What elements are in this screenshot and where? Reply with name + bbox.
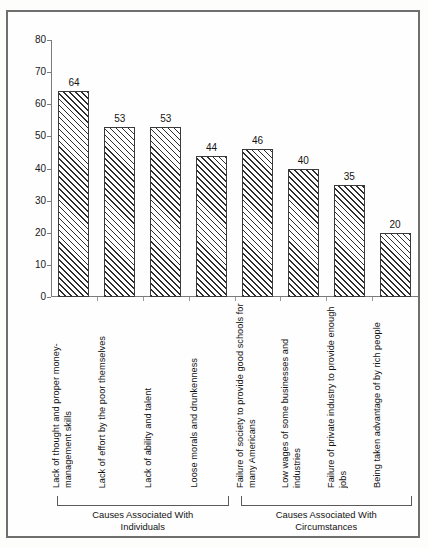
group-caption: Causes Associated WithIndividuals <box>57 509 229 533</box>
bar-value-label: 40 <box>298 155 309 167</box>
group-caption: Causes Associated WithCircumstances <box>241 509 413 533</box>
bar-value-label: 44 <box>206 142 217 154</box>
group-bracket-line <box>241 496 413 506</box>
y-tick-mark <box>47 104 51 105</box>
bar-value-label: 53 <box>160 113 171 125</box>
group-brackets: Causes Associated WithIndividualsCauses … <box>51 496 418 548</box>
category-label-text: Low wages of some businesses and industr… <box>280 300 303 488</box>
plot-area: 01020304050607080 6453534446403520 <box>51 40 418 297</box>
bar-value-label: 20 <box>390 219 401 231</box>
group-caption-line-2: Circumstances <box>241 521 413 533</box>
y-tick-label: 70 <box>35 65 46 78</box>
category-label-text: Lack of thought and proper money-managem… <box>51 300 74 488</box>
y-tick-label: 40 <box>35 162 46 175</box>
group-caption-line-1: Causes Associated With <box>241 509 413 521</box>
bar: 20 <box>380 233 411 297</box>
bar: 53 <box>104 127 135 297</box>
category-labels: Lack of thought and proper money-managem… <box>51 300 418 488</box>
group: Causes Associated WithIndividuals <box>57 496 229 533</box>
category-label: Lack of effort by the poor themselves <box>97 300 143 488</box>
y-tick-mark <box>47 40 51 41</box>
category-label: Being taken advantage of by rich people <box>372 300 418 488</box>
group: Causes Associated WithCircumstances <box>241 496 413 533</box>
category-label-text: Being taken advantage of by rich people <box>372 322 384 488</box>
bar: 46 <box>242 149 273 297</box>
y-tick-label: 0 <box>40 290 46 303</box>
y-tick-label: 50 <box>35 129 46 142</box>
y-tick-label: 80 <box>35 33 46 46</box>
y-tick-mark <box>47 297 51 298</box>
bar: 40 <box>288 169 319 298</box>
group-caption-line-1: Causes Associated With <box>57 509 229 521</box>
y-tick-mark <box>47 72 51 73</box>
bar: 53 <box>150 127 181 297</box>
bar: 35 <box>334 185 365 297</box>
category-label: Low wages of some businesses and industr… <box>280 300 326 488</box>
y-tick-label: 60 <box>35 97 46 110</box>
bar-value-label: 64 <box>68 77 79 89</box>
y-tick-mark <box>47 233 51 234</box>
bar-value-label: 46 <box>252 135 263 147</box>
y-tick-label: 20 <box>35 226 46 239</box>
y-tick-mark <box>47 136 51 137</box>
bar: 44 <box>196 156 227 297</box>
bar-value-label: 53 <box>114 113 125 125</box>
y-tick-mark <box>47 265 51 266</box>
category-label: Failure of private industry to provide e… <box>326 300 372 488</box>
category-label-text: Lack of ability and talent <box>143 388 155 488</box>
category-label: Loose morals and drunkenness <box>189 300 235 488</box>
category-label-text: Failure of private industry to provide e… <box>326 300 349 488</box>
y-tick-mark <box>47 201 51 202</box>
category-label: Lack of thought and proper money-managem… <box>51 300 97 488</box>
y-tick-label: 10 <box>35 258 46 271</box>
group-bracket-line <box>57 496 229 506</box>
category-label-text: Loose morals and drunkenness <box>189 358 201 488</box>
category-label-text: Failure of society to provide good schoo… <box>235 300 258 488</box>
y-axis-line <box>51 40 52 297</box>
category-label: Failure of society to provide good schoo… <box>235 300 281 488</box>
y-tick-mark <box>47 169 51 170</box>
figure: 01020304050607080 6453534446403520 Lack … <box>0 0 428 548</box>
bar: 64 <box>58 91 89 297</box>
figure-frame: 01020304050607080 6453534446403520 Lack … <box>6 10 420 538</box>
y-tick-label: 30 <box>35 194 46 207</box>
category-label: Lack of ability and talent <box>143 300 189 488</box>
bar-value-label: 35 <box>344 171 355 183</box>
group-caption-line-2: Individuals <box>57 521 229 533</box>
category-label-text: Lack of effort by the poor themselves <box>97 336 109 488</box>
